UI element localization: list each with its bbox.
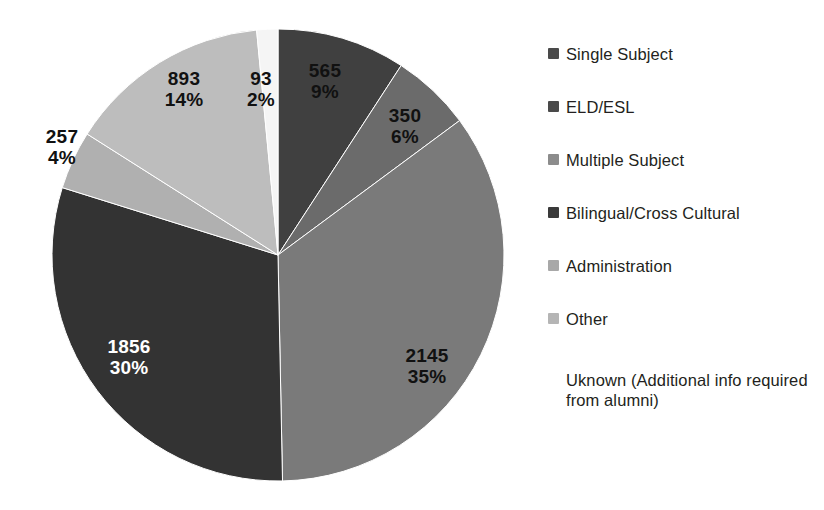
slice-label-multiple-subject: 2145 35%: [388, 345, 466, 388]
chart-canvas: 565 9% 350 6% 2145 35% 1856 30% 257 4% 8…: [0, 0, 824, 510]
legend-swatch-icon: [548, 207, 559, 218]
legend-item-eld-esl[interactable]: ELD/ESL: [548, 97, 820, 150]
slice-label-bilingual-cross-cultural: 1856 30%: [90, 336, 168, 379]
slice-value-uknown: 93: [230, 68, 292, 89]
pie-chart: 565 9% 350 6% 2145 35% 1856 30% 257 4% 8…: [40, 20, 520, 490]
legend-label-administration: Administration: [566, 256, 672, 276]
legend-swatch-icon: [548, 48, 559, 59]
legend-label-bilingual-cross-cultural: Bilingual/Cross Cultural: [566, 203, 740, 223]
slice-percent-multiple-subject: 35%: [388, 366, 466, 387]
legend-item-uknown[interactable]: Uknown (Additional info required from al…: [548, 370, 820, 410]
slice-percent-administration: 4%: [26, 147, 98, 168]
legend-label-eld-esl: ELD/ESL: [566, 97, 635, 117]
legend-label-other: Other: [566, 309, 608, 329]
legend-swatch-icon: [548, 101, 559, 112]
slice-value-single-subject: 565: [290, 60, 360, 81]
slice-label-eld-esl: 350 6%: [370, 105, 440, 148]
slice-label-single-subject: 565 9%: [290, 60, 360, 103]
legend-label-uknown: Uknown (Additional info required from al…: [566, 370, 811, 410]
slice-label-other: 893 14%: [148, 68, 220, 111]
legend-item-multiple-subject[interactable]: Multiple Subject: [548, 150, 820, 203]
legend-item-administration[interactable]: Administration: [548, 256, 820, 309]
slice-label-uknown: 93 2%: [230, 68, 292, 111]
slice-percent-single-subject: 9%: [290, 81, 360, 102]
legend-swatch-icon: [548, 374, 559, 385]
slice-value-bilingual-cross-cultural: 1856: [90, 336, 168, 357]
legend-label-multiple-subject: Multiple Subject: [566, 150, 684, 170]
legend-item-bilingual-cross-cultural[interactable]: Bilingual/Cross Cultural: [548, 203, 820, 256]
legend-item-other[interactable]: Other: [548, 309, 820, 362]
legend-item-single-subject[interactable]: Single Subject: [548, 44, 820, 97]
slice-value-administration: 257: [26, 126, 98, 147]
legend: Single Subject ELD/ESL Multiple Subject …: [548, 44, 820, 410]
legend-swatch-icon: [548, 260, 559, 271]
legend-swatch-icon: [548, 313, 559, 324]
legend-label-single-subject: Single Subject: [566, 44, 673, 64]
slice-percent-uknown: 2%: [230, 89, 292, 110]
slice-value-other: 893: [148, 68, 220, 89]
slice-percent-eld-esl: 6%: [370, 126, 440, 147]
slice-percent-other: 14%: [148, 89, 220, 110]
slice-value-multiple-subject: 2145: [388, 345, 466, 366]
legend-swatch-icon: [548, 154, 559, 165]
slice-value-eld-esl: 350: [370, 105, 440, 126]
slice-percent-bilingual-cross-cultural: 30%: [90, 357, 168, 378]
slice-label-administration: 257 4%: [26, 126, 98, 169]
